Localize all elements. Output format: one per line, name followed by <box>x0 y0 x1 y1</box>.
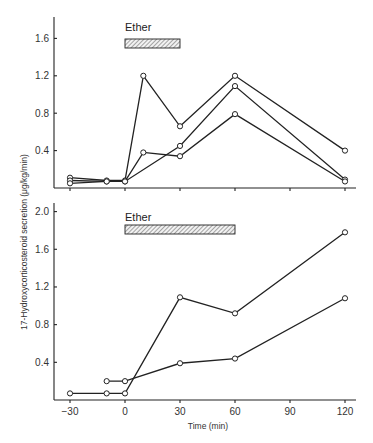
data-point <box>232 356 237 361</box>
data-point <box>177 154 182 159</box>
ether-bar-top <box>125 39 180 48</box>
figure: 17-Hydroxycorticosteroid secretion (μg/k… <box>0 0 373 443</box>
data-point <box>141 73 146 78</box>
data-point <box>232 112 237 117</box>
x-axis-title: Time (min) <box>188 421 228 431</box>
x-tick-label: 60 <box>229 406 241 417</box>
x-tick-label: 90 <box>284 406 296 417</box>
x-tick-label: 0 <box>122 406 128 417</box>
series-line <box>70 114 345 183</box>
data-point <box>104 379 109 384</box>
top-panel: 0.40.81.21.6 Ether <box>35 17 356 191</box>
x-tick-label: −30 <box>62 406 79 417</box>
x-tick-label: 120 <box>337 406 354 417</box>
bottom-panel: 0.40.81.21.62.0 −300306090120 Ether Time… <box>35 203 356 431</box>
y-tick-label: 0.4 <box>35 357 49 368</box>
data-point <box>232 73 237 78</box>
data-point <box>104 179 109 184</box>
series-line <box>70 232 345 393</box>
data-point <box>67 181 72 186</box>
y-tick-label: 0.8 <box>35 319 49 330</box>
data-point <box>342 230 347 235</box>
data-point <box>232 83 237 88</box>
data-point <box>122 179 127 184</box>
y-tick-label: 0.4 <box>35 145 49 156</box>
data-point <box>67 391 72 396</box>
x-tick-label: 30 <box>174 406 186 417</box>
ether-label-top: Ether <box>125 21 152 33</box>
data-point <box>122 391 127 396</box>
y-tick-label: 1.2 <box>35 70 49 81</box>
y-tick-label: 1.6 <box>35 33 49 44</box>
data-point <box>177 124 182 129</box>
data-point <box>342 179 347 184</box>
data-point <box>232 311 237 316</box>
data-point <box>177 143 182 148</box>
data-point <box>177 295 182 300</box>
bottom-x-ticks: −300306090120 <box>62 400 354 417</box>
data-point <box>104 391 109 396</box>
y-tick-label: 0.8 <box>35 108 49 119</box>
y-tick-label: 2.0 <box>35 206 49 217</box>
data-point <box>342 296 347 301</box>
data-point <box>141 150 146 155</box>
bottom-series <box>67 230 347 396</box>
top-series <box>67 73 347 186</box>
y-tick-label: 1.6 <box>35 244 49 255</box>
data-point <box>177 361 182 366</box>
data-point <box>122 379 127 384</box>
y-tick-label: 1.2 <box>35 281 49 292</box>
y-axis-title: 17-Hydroxycorticosteroid secretion (μg/k… <box>19 154 29 330</box>
ether-bar-bottom <box>125 225 235 234</box>
series-line <box>70 76 345 181</box>
data-point <box>342 148 347 153</box>
ether-label-bottom: Ether <box>125 211 152 223</box>
